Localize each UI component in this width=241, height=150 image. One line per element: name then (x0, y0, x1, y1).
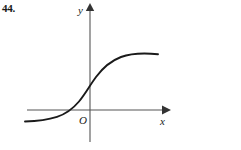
figure-container: 44. y x O (0, 0, 241, 150)
curve-path (25, 53, 158, 121)
origin-label: O (79, 114, 87, 126)
x-axis-label: x (159, 115, 165, 127)
graph-plot: y x O (0, 0, 241, 150)
y-axis-arrow-icon (86, 3, 94, 11)
y-axis-label: y (77, 4, 83, 16)
x-axis-arrow-icon (162, 106, 171, 115)
